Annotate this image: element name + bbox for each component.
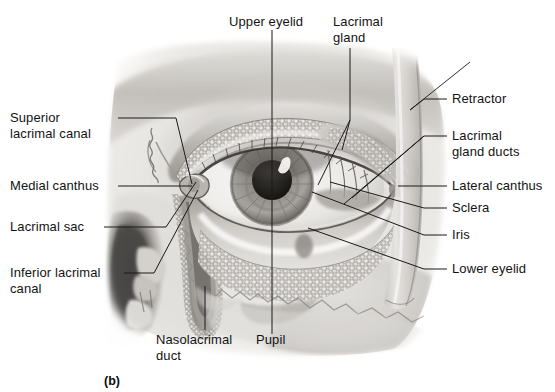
label-nasolacrimal-duct-line2: duct [156, 348, 181, 364]
panel-letter-b: (b) [104, 374, 120, 388]
label-lateral-canthus: Lateral canthus [452, 178, 542, 194]
label-lacrimal-gland-line1: Lacrimal [333, 14, 383, 30]
medial-canthus-shape [180, 174, 209, 198]
label-sclera: Sclera [452, 200, 489, 216]
label-lacrimal-sac: Lacrimal sac [10, 219, 84, 235]
label-iris: Iris [452, 227, 470, 243]
label-lacrimal-gland-line2: gland [333, 30, 365, 46]
label-superior-lacrimal-canal-line2: lacrimal canal [10, 126, 91, 142]
label-lacrimal-gland-ducts-line1: Lacrimal [452, 128, 502, 144]
label-medial-canthus: Medial canthus [10, 178, 99, 194]
label-pupil: Pupil [256, 332, 285, 348]
label-lacrimal-gland-ducts-line2: gland ducts [452, 144, 520, 160]
label-upper-eyelid: Upper eyelid [229, 14, 303, 30]
label-superior-lacrimal-canal-line1: Superior [10, 110, 60, 126]
label-inferior-lacrimal-canal-line2: canal [10, 281, 42, 297]
label-nasolacrimal-duct-line1: Nasolacrimal [156, 332, 232, 348]
figure-panel-b: Upper eyelid Lacrimal gland Retractor La… [0, 0, 555, 392]
label-retractor: Retractor [452, 91, 506, 107]
label-lower-eyelid: Lower eyelid [452, 261, 526, 277]
label-inferior-lacrimal-canal-line1: Inferior lacrimal [10, 265, 101, 281]
